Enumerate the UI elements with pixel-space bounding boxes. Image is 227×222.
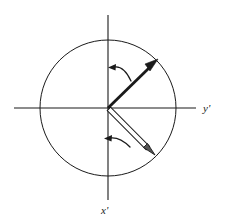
lower-vector-shaft <box>107 107 149 150</box>
x-prime-axis-label: x' <box>100 204 109 216</box>
upper-rotation-arrow-path <box>114 67 131 81</box>
y-prime-axis-label: y' <box>202 102 211 114</box>
lower-rotation-arrow-path <box>110 138 130 147</box>
upper-rotation-arrowhead <box>108 64 116 71</box>
upper-vector-shaft <box>108 68 149 108</box>
diagram-canvas: y' x' <box>0 0 227 222</box>
rotating-vector-diagram: y' x' <box>0 0 227 222</box>
upper-rotation-arrow <box>108 64 131 81</box>
lower-vector <box>107 107 155 155</box>
